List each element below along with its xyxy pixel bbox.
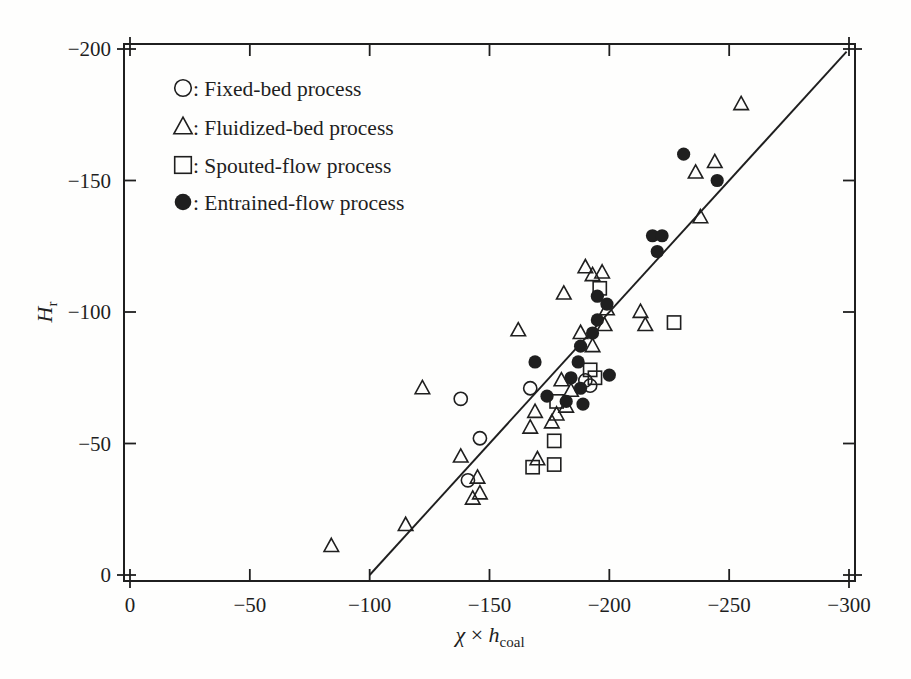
data-point xyxy=(574,382,587,395)
legend-label: : Fluidized-bed process xyxy=(193,116,394,140)
legend-item: : Fluidized-bed process xyxy=(174,116,394,140)
data-point xyxy=(600,298,613,311)
data-point xyxy=(528,404,543,417)
data-point xyxy=(603,369,616,382)
x-tick-label: −100 xyxy=(348,593,391,617)
legend-item: : Fixed-bed process xyxy=(175,77,362,101)
data-point xyxy=(667,316,680,329)
axis-titles: Hrχ × hcoal xyxy=(32,302,525,650)
data-point xyxy=(530,451,545,464)
legend-label: : Spouted-flow process xyxy=(193,154,391,178)
y-tick-label: 0 xyxy=(101,563,112,587)
data-point xyxy=(473,432,486,445)
x-tick-label: −50 xyxy=(233,593,266,617)
open-triangle-legend-icon xyxy=(174,117,192,134)
data-point xyxy=(548,434,561,447)
data-point xyxy=(526,461,539,474)
x-tick-label: −300 xyxy=(827,593,870,617)
data-point xyxy=(655,229,668,242)
data-point xyxy=(572,355,585,368)
data-point xyxy=(540,390,553,403)
data-point xyxy=(651,245,664,258)
data-point xyxy=(548,458,561,471)
series-filled-circle xyxy=(528,148,723,411)
data-point xyxy=(734,96,749,109)
correlation-line xyxy=(370,52,847,575)
axis-tick-labels: 0−50−100−150−200−250−3000−50−100−150−200 xyxy=(68,37,871,617)
open-circle-legend-icon xyxy=(175,80,192,97)
data-point xyxy=(528,355,541,368)
data-point xyxy=(688,165,703,178)
data-point xyxy=(453,449,468,462)
legend-item: : Entrained-flow process xyxy=(175,191,405,215)
data-point xyxy=(638,317,653,330)
data-point xyxy=(473,486,488,499)
filled-circle-legend-icon xyxy=(175,194,192,211)
scatter-plot: 0−50−100−150−200−250−3000−50−100−150−200… xyxy=(0,0,911,679)
y-tick-label: −50 xyxy=(78,432,111,456)
fit-line xyxy=(370,52,847,575)
data-point xyxy=(711,174,724,187)
data-point xyxy=(633,304,648,317)
data-point xyxy=(564,371,577,384)
legend: : Fixed-bed process: Fluidized-bed proce… xyxy=(174,77,404,215)
y-tick-label: −150 xyxy=(68,169,111,193)
legend-label: : Entrained-flow process xyxy=(193,191,404,215)
data-point xyxy=(573,325,588,338)
legend-item: : Spouted-flow process xyxy=(175,154,392,178)
data-point xyxy=(523,420,538,433)
data-point xyxy=(511,323,526,336)
x-tick-label: −150 xyxy=(468,593,511,617)
y-tick-label: −100 xyxy=(68,300,111,324)
data-point xyxy=(454,392,467,405)
figure: 0−50−100−150−200−250−3000−50−100−150−200… xyxy=(0,0,911,679)
y-axis-title: Hr xyxy=(32,302,60,324)
data-point xyxy=(560,395,573,408)
data-point xyxy=(398,517,413,530)
data-point xyxy=(574,340,587,353)
x-tick-label: −200 xyxy=(588,593,631,617)
data-point xyxy=(324,538,339,551)
open-square-legend-icon xyxy=(175,157,192,174)
data-point xyxy=(586,326,599,339)
x-tick-label: −250 xyxy=(707,593,750,617)
data-point xyxy=(576,397,589,410)
data-point xyxy=(591,313,604,326)
data-point xyxy=(415,380,430,393)
data-point xyxy=(677,148,690,161)
x-axis-title: χ × hcoal xyxy=(453,622,524,650)
data-point xyxy=(708,154,723,167)
legend-label: : Fixed-bed process xyxy=(193,77,361,101)
x-tick-label: 0 xyxy=(125,593,136,617)
data-point xyxy=(557,286,572,299)
data-point xyxy=(585,338,600,351)
data-point xyxy=(524,382,537,395)
y-tick-label: −200 xyxy=(68,37,111,61)
